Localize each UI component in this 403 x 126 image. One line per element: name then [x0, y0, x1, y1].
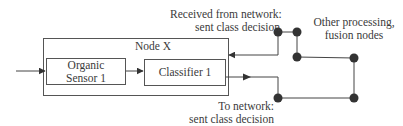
sent-line1: To network: — [170, 100, 274, 113]
received-line2: sent class decision — [170, 21, 280, 34]
sent-link — [226, 77, 278, 98]
received-label: Received from network: sent class decisi… — [170, 8, 280, 34]
other-line2: fusion nodes — [305, 29, 403, 42]
sent-label: To network: sent class decision — [170, 100, 274, 126]
network-node-dot — [350, 94, 359, 103]
organic-sensor-line2: Sensor 1 — [46, 72, 126, 85]
network-node-dot — [350, 54, 359, 63]
received-link — [229, 32, 278, 55]
organic-sensor-line1: Organic — [46, 59, 126, 72]
organic-sensor-label: Organic Sensor 1 — [46, 59, 126, 85]
network-node-dot — [274, 94, 283, 103]
sent-arrowhead — [243, 74, 251, 81]
node-x-title: Node X — [118, 40, 188, 53]
received-line1: Received from network: — [170, 8, 280, 21]
other-processing-label: Other processing, fusion nodes — [305, 16, 403, 42]
sent-line2: sent class decision — [170, 113, 274, 126]
network-node-dot — [293, 53, 302, 62]
other-line1: Other processing, — [305, 16, 403, 29]
classifier-label: Classifier 1 — [144, 66, 226, 79]
network-node-dot — [293, 28, 302, 37]
